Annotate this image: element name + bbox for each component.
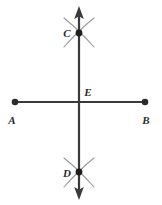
point-dot-b xyxy=(142,99,149,106)
geometry-figure: A B C D E xyxy=(0,0,162,205)
geometry-canvas: A B C D E xyxy=(0,0,162,205)
point-label-c: C xyxy=(63,27,71,39)
point-dot-a xyxy=(12,99,19,106)
point-label-d: D xyxy=(62,167,71,179)
point-label-e: E xyxy=(83,86,91,98)
point-dot-d xyxy=(76,169,83,176)
point-dot-c xyxy=(76,30,83,37)
point-label-a: A xyxy=(7,114,15,126)
point-label-b: B xyxy=(141,114,149,126)
